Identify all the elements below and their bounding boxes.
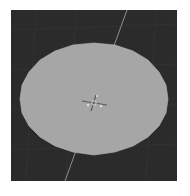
viewport-canvas[interactable] [11, 10, 177, 181]
circle-mesh-object[interactable] [20, 43, 168, 155]
3d-viewport[interactable]: 3D Viewport [11, 10, 177, 181]
